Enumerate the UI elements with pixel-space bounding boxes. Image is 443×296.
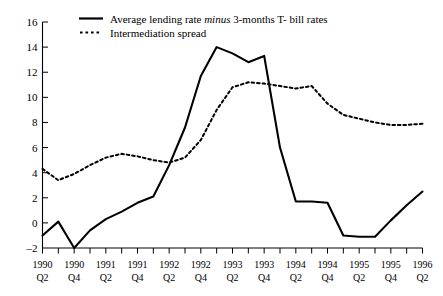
- x-tick-label-quarter: Q4: [68, 272, 80, 283]
- x-tick-label-quarter: Q4: [131, 272, 143, 283]
- legend-label-lending-rate: Average lending rate minus 3-months T- b…: [110, 13, 328, 25]
- x-tick-label-year: 1993: [254, 259, 274, 270]
- x-tick-label-year: 1990: [64, 259, 84, 270]
- x-tick-label-year: 1992: [191, 259, 211, 270]
- y-axis-tick-labels: –20246810121416: [26, 16, 39, 254]
- y-tick-label: 16: [27, 16, 39, 28]
- y-tick-label: 8: [32, 116, 38, 128]
- x-tick-label-quarter: Q2: [36, 272, 48, 283]
- x-tick-label-quarter: Q4: [321, 272, 333, 283]
- x-tick-label-year: 1994: [286, 259, 306, 270]
- x-tick-label-quarter: Q2: [226, 272, 238, 283]
- x-tick-label-quarter: Q2: [416, 272, 428, 283]
- x-tick-label-year: 1990: [33, 259, 53, 270]
- chart-figure: –20246810121416 1990Q21990Q41991Q21991Q4…: [0, 0, 443, 296]
- x-tick-label-quarter: Q2: [163, 272, 175, 283]
- legend-label-intermediation-spread: Intermediation spread: [110, 27, 207, 39]
- y-axis-ticks: [43, 22, 49, 223]
- y-tick-label: –2: [26, 242, 38, 254]
- y-tick-label: 4: [32, 167, 38, 179]
- x-tick-label-quarter: Q2: [353, 272, 365, 283]
- series-line-lending-rate: [43, 47, 423, 248]
- x-tick-label-year: 1992: [159, 259, 179, 270]
- y-tick-label: 0: [32, 217, 38, 229]
- x-tick-label-quarter: Q4: [195, 272, 207, 283]
- y-tick-label: 6: [32, 142, 38, 154]
- x-tick-label-year: 1991: [96, 259, 116, 270]
- line-chart-canvas: –20246810121416 1990Q21990Q41991Q21991Q4…: [0, 0, 443, 296]
- x-tick-label-year: 1994: [318, 259, 338, 270]
- x-tick-label-year: 1991: [128, 259, 148, 270]
- data-series: [43, 47, 423, 248]
- y-tick-label: 14: [27, 41, 39, 53]
- axes: [43, 22, 423, 248]
- y-tick-label: 10: [27, 91, 39, 103]
- x-tick-label-year: 1993: [223, 259, 243, 270]
- axis-lines: [43, 22, 423, 248]
- x-tick-label-quarter: Q2: [290, 272, 302, 283]
- y-tick-label: 2: [32, 192, 38, 204]
- x-tick-label-year: 1996: [413, 259, 433, 270]
- x-axis-tick-labels: 1990Q21990Q41991Q21991Q41992Q21992Q41993…: [33, 259, 433, 283]
- series-line-intermediation-spread: [43, 82, 423, 180]
- x-axis-ticks: [43, 248, 423, 254]
- x-tick-label-quarter: Q4: [258, 272, 270, 283]
- x-tick-label-quarter: Q4: [385, 272, 397, 283]
- chart-legend: Average lending rate minus 3-months T- b…: [79, 13, 328, 39]
- x-tick-label-year: 1995: [381, 259, 401, 270]
- y-tick-label: 12: [27, 66, 38, 78]
- x-tick-label-quarter: Q2: [100, 272, 112, 283]
- x-tick-label-year: 1995: [349, 259, 369, 270]
